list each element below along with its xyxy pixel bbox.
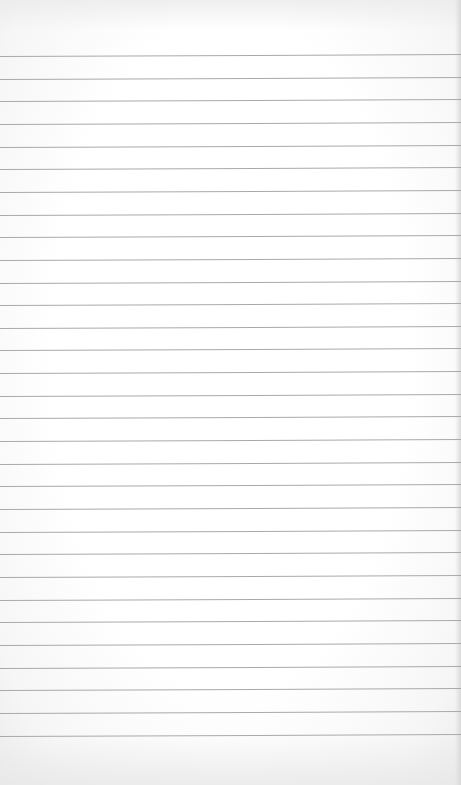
ruled-line xyxy=(0,530,461,533)
ruled-line xyxy=(0,484,461,487)
ruled-line xyxy=(0,99,461,102)
ruled-line xyxy=(0,711,461,714)
top-edge-shadow xyxy=(0,0,461,30)
ruled-line xyxy=(0,190,461,193)
ruled-line xyxy=(0,280,461,283)
ruled-line xyxy=(0,303,461,306)
ruled-line xyxy=(0,439,461,442)
ruled-line xyxy=(0,643,461,646)
ruled-line xyxy=(0,462,461,465)
right-edge-shadow xyxy=(455,0,461,785)
ruled-line xyxy=(0,620,461,623)
ruled-line xyxy=(0,416,461,419)
ruled-line xyxy=(0,552,461,555)
ruled-line xyxy=(0,212,461,215)
ruled-line xyxy=(0,235,461,238)
ruled-line xyxy=(0,145,461,148)
ruled-line xyxy=(0,371,461,374)
ruled-line xyxy=(0,598,461,601)
ruled-line xyxy=(0,575,461,578)
ruled-line xyxy=(0,348,461,351)
ruled-line xyxy=(0,665,461,668)
ruled-line xyxy=(0,54,461,57)
ruled-line xyxy=(0,394,461,397)
ruled-line xyxy=(0,258,461,261)
ruled-line xyxy=(0,507,461,510)
lined-paper xyxy=(0,0,461,785)
ruled-line xyxy=(0,77,461,80)
ruled-line xyxy=(0,122,461,125)
ruled-line xyxy=(0,167,461,170)
ruled-line xyxy=(0,326,461,329)
bottom-edge-shadow xyxy=(0,735,461,785)
ruled-line xyxy=(0,688,461,691)
